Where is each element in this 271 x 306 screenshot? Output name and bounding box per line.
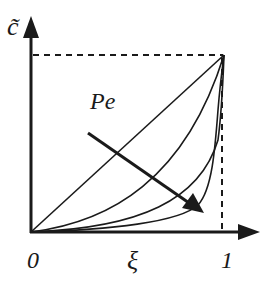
x-tick-1: 1 (221, 248, 233, 272)
pe-label: Pe (90, 89, 115, 113)
pe-arrow (88, 133, 192, 205)
y-axis-label: c̃ (7, 14, 19, 40)
pe-arrowhead-icon (182, 193, 204, 213)
x-axis-arrowhead-icon (238, 224, 260, 240)
x-tick-0: 0 (27, 248, 39, 272)
x-axis-label: ξ (127, 248, 138, 274)
diagram-figure: c̃ Pe 0 ξ 1 (0, 0, 271, 306)
y-axis-arrowhead-icon (23, 16, 39, 38)
